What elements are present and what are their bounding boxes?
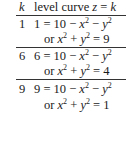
op: + [67, 98, 80, 112]
rhs: 9 [103, 32, 109, 46]
op: − [89, 82, 102, 96]
row-equation: 1 = 10 − x2 − y2 [34, 17, 112, 31]
header-k: k [19, 0, 25, 14]
k-var: k [111, 0, 117, 14]
header-level-curve: level curve z = k [34, 0, 116, 14]
op: = [90, 98, 103, 112]
op: = 10 − [40, 17, 79, 31]
row-rule [16, 79, 126, 80]
exp: 2 [108, 81, 112, 90]
op: + [67, 64, 80, 78]
row-equation: 9 = 10 − x2 − y2 [34, 82, 112, 96]
op: + [67, 32, 80, 46]
row-or-equation: or x2 + y2 = 9 [44, 32, 110, 46]
row-or-equation: or x2 + y2 = 1 [44, 98, 110, 112]
op: = 10 − [40, 49, 79, 63]
eq: = [97, 0, 110, 14]
exp: 2 [108, 16, 112, 25]
or-label: or [44, 32, 58, 46]
op: = [90, 32, 103, 46]
k-var: k [19, 0, 25, 14]
rhs: 1 [103, 98, 109, 112]
or-label: or [44, 64, 58, 78]
row-k: 6 [19, 49, 25, 63]
row-k: 9 [19, 82, 25, 96]
op: − [89, 17, 102, 31]
or-label: or [44, 98, 58, 112]
op: − [89, 49, 102, 63]
row-equation: 6 = 10 − x2 − y2 [34, 49, 112, 63]
row-k: 1 [19, 17, 25, 31]
exp: 2 [108, 48, 112, 57]
header-label: level curve [34, 0, 92, 14]
rhs: 4 [103, 64, 109, 78]
op: = 10 − [40, 82, 79, 96]
row-or-equation: or x2 + y2 = 4 [44, 64, 110, 78]
op: = [90, 64, 103, 78]
